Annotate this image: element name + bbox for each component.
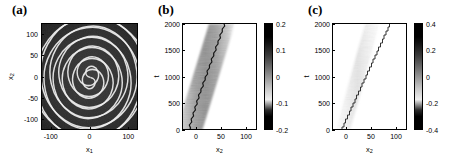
panel-b-ytickmark-4 xyxy=(182,24,185,25)
panel-b-yaxis-title: t xyxy=(152,65,161,89)
panel-c-label: (c) xyxy=(308,2,322,18)
panel-b-ytick-0: 0 xyxy=(156,127,180,134)
panel-c-ytickmark-0 xyxy=(332,130,335,131)
panel-c-cbar-tick-3: -0.2 xyxy=(426,100,438,107)
panel-a-ytick-4: -100 xyxy=(18,116,38,123)
panel-b-xtick-2: 100 xyxy=(240,133,252,140)
panel-a-ytickmark-2 xyxy=(41,77,44,78)
panel-b-ytickmark-0 xyxy=(182,130,185,131)
figure-container: (a) xyxy=(0,0,449,165)
panel-b-cbar-tick-4: -0.2 xyxy=(276,127,288,134)
panel-a-ytick-2: 0 xyxy=(18,73,38,80)
panel-c-ytickmark-2 xyxy=(332,77,335,78)
panel-c-ytickmark-3 xyxy=(332,50,335,51)
panel-b-xtickmark-2 xyxy=(246,127,247,130)
panel-b-ytick-3: 1500 xyxy=(156,47,180,54)
panel-b-plot-area xyxy=(182,23,257,130)
panel-a-ytickmark-0 xyxy=(41,34,44,35)
panel-a-ytick-1: 50 xyxy=(18,52,38,59)
panel-b-xtick-0: 0 xyxy=(194,133,198,140)
panel-c-xtick-0: 0 xyxy=(344,133,348,140)
panel-a-yaxis-title-text: x xyxy=(6,76,15,80)
panel-b-ytick-1: 500 xyxy=(156,100,180,107)
panel-a-ytick-3: -50 xyxy=(18,94,38,101)
panel-b-ytickmark-1 xyxy=(182,103,185,104)
panel-c: (c) xyxy=(300,0,449,165)
panel-b-xtickmark-1 xyxy=(221,127,222,130)
panel-c-ytick-3: 1500 xyxy=(306,47,330,54)
panel-a-ytickmark-1 xyxy=(41,55,44,56)
panel-c-ytickmark-4 xyxy=(332,24,335,25)
panel-a-xtick-1: 0 xyxy=(88,133,92,140)
panel-a-xtickmark-1 xyxy=(90,127,91,130)
panel-a: (a) xyxy=(0,0,150,165)
panel-a-xtickmark-2 xyxy=(128,127,129,130)
panel-c-cbar-tick-4: -0.4 xyxy=(426,127,438,134)
panel-b-cbar-tick-3: -0.1 xyxy=(276,100,288,107)
panel-c-xaxis-title-sub: 2 xyxy=(370,148,373,154)
panel-c-ytick-1: 500 xyxy=(306,100,330,107)
panel-c-xtickmark-0 xyxy=(346,127,347,130)
panel-b-xtickmark-0 xyxy=(196,127,197,130)
panel-a-ytickmark-4 xyxy=(41,119,44,120)
panel-c-ytick-4: 2000 xyxy=(306,20,330,27)
panel-a-xaxis-title: x1 xyxy=(86,145,93,154)
panel-a-ytick-0: 100 xyxy=(18,30,38,37)
panel-b-xtick-1: 50 xyxy=(217,133,225,140)
panel-c-cbar-tick-2: 0 xyxy=(426,73,430,80)
panel-a-xaxis-title-sub: 1 xyxy=(90,148,93,154)
spiral-wave-image xyxy=(42,24,137,129)
panel-a-yaxis-title-sub: 2 xyxy=(9,73,15,76)
panel-a-plot-area xyxy=(41,23,138,130)
panel-c-colorbar xyxy=(414,23,423,130)
panel-c-plot-area xyxy=(332,23,407,130)
panel-c-ytick-0: 0 xyxy=(306,127,330,134)
panel-a-ytickmark-3 xyxy=(41,98,44,99)
panel-a-xtick-0: -100 xyxy=(44,133,58,140)
panel-b-label: (b) xyxy=(158,2,174,18)
panel-b-xaxis-title: x2 xyxy=(216,145,223,154)
panel-c-xtickmark-1 xyxy=(371,127,372,130)
panel-b-xaxis-title-sub: 2 xyxy=(220,148,223,154)
panel-c-xtick-2: 100 xyxy=(390,133,402,140)
panel-b-cbar-tick-2: 0 xyxy=(276,73,280,80)
panel-b-ytickmark-2 xyxy=(182,77,185,78)
panel-a-xtick-2: 100 xyxy=(122,133,134,140)
panel-b-cbar-tick-0: 0.2 xyxy=(276,20,286,27)
panel-c-yaxis-title: t xyxy=(302,65,311,89)
panel-c-cbar-tick-1: 0.2 xyxy=(426,47,436,54)
panel-b-ytick-4: 2000 xyxy=(156,20,180,27)
panel-a-yaxis-title: x2 xyxy=(6,65,15,89)
panel-b-cbar-tick-1: 0.1 xyxy=(276,47,286,54)
panel-b: (b) xyxy=(150,0,300,165)
panel-c-xtickmark-2 xyxy=(396,127,397,130)
panel-c-ytickmark-1 xyxy=(332,103,335,104)
panel-c-cbar-tick-0: 0.4 xyxy=(426,20,436,27)
panel-c-xtick-1: 50 xyxy=(367,133,375,140)
panel-c-xaxis-title: x2 xyxy=(366,145,373,154)
panel-a-xtickmark-0 xyxy=(51,127,52,130)
panel-b-colorbar xyxy=(264,23,273,130)
panel-a-label: (a) xyxy=(12,2,27,18)
panel-b-ytickmark-3 xyxy=(182,50,185,51)
